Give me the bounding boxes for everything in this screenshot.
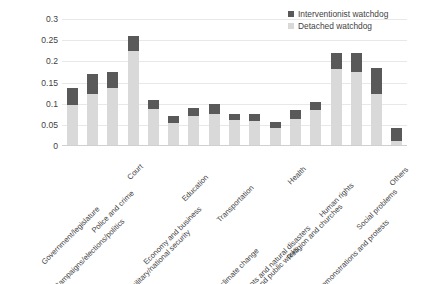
stacked-bar[interactable] xyxy=(128,36,139,146)
bar-segment-detached xyxy=(290,119,301,146)
bar-segment-interventionist xyxy=(107,72,118,88)
stacked-bar[interactable] xyxy=(270,122,281,146)
stacked-bar[interactable] xyxy=(107,72,118,146)
bar-slot xyxy=(366,19,386,146)
bar-segment-detached xyxy=(107,88,118,146)
bar-slot xyxy=(123,19,143,146)
bar-slot xyxy=(285,19,305,146)
bar-segment-detached xyxy=(87,94,98,146)
stacked-bar[interactable] xyxy=(331,53,342,146)
bar-slot xyxy=(346,19,366,146)
y-tick-label: 0.3 xyxy=(18,15,58,24)
legend-item-interventionist-watchdog: Interventionist watchdog xyxy=(288,9,388,19)
stacked-bar[interactable] xyxy=(87,74,98,146)
bar-slot xyxy=(224,19,244,146)
stacked-bar[interactable] xyxy=(168,116,179,146)
bar-slot xyxy=(103,19,123,146)
bar-segment-interventionist xyxy=(249,114,260,121)
bar-segment-detached xyxy=(270,128,281,146)
bar-segment-detached xyxy=(209,114,220,146)
x-tick-label: Court xyxy=(125,162,145,182)
bar-segment-interventionist xyxy=(351,53,362,72)
bar-slot xyxy=(387,19,407,146)
bar-segment-interventionist xyxy=(371,68,382,94)
legend-label-interventionist: Interventionist watchdog xyxy=(298,9,388,19)
bar-slot xyxy=(143,19,163,146)
bar-segment-interventionist xyxy=(331,53,342,69)
bar-slot xyxy=(82,19,102,146)
x-axis-labels: Government/legislatureCampaigns/election… xyxy=(62,147,407,277)
x-tick-label: Demonstrations and protests xyxy=(316,218,391,284)
bar-slot xyxy=(265,19,285,146)
bar-slot xyxy=(163,19,183,146)
bar-segment-detached xyxy=(67,105,78,146)
bar-segment-detached xyxy=(128,51,139,146)
bar-segment-detached xyxy=(229,120,240,146)
bar-segment-interventionist xyxy=(148,100,159,109)
bar-segment-interventionist xyxy=(209,104,220,115)
bar-segment-detached xyxy=(351,72,362,146)
y-tick-label: 0.15 xyxy=(18,78,58,87)
stacked-bar[interactable] xyxy=(290,110,301,146)
bar-slot xyxy=(245,19,265,146)
stacked-bar[interactable] xyxy=(67,88,78,146)
x-tick-label: Education xyxy=(180,173,210,203)
bar-slot xyxy=(326,19,346,146)
stacked-bar[interactable] xyxy=(229,114,240,146)
legend-swatch-interventionist xyxy=(288,11,294,17)
stacked-bar[interactable] xyxy=(148,100,159,146)
bar-segment-detached xyxy=(168,123,179,146)
bar-slot xyxy=(204,19,224,146)
bar-slot xyxy=(306,19,326,146)
bar-segment-interventionist xyxy=(67,88,78,105)
bar-slot xyxy=(184,19,204,146)
x-tick-label: Others xyxy=(387,165,409,187)
bar-segment-detached xyxy=(249,121,260,146)
bar-segment-interventionist xyxy=(128,36,139,51)
y-tick-label: 0.05 xyxy=(18,121,58,130)
y-tick-label: 0 xyxy=(18,142,58,151)
stacked-bar[interactable] xyxy=(249,114,260,146)
y-tick-label: 0.25 xyxy=(18,36,58,45)
x-axis-line xyxy=(62,145,407,146)
bar-segment-interventionist xyxy=(310,102,321,110)
bar-segment-detached xyxy=(310,110,321,146)
x-tick-label: Transportation xyxy=(214,183,255,224)
stacked-bar[interactable] xyxy=(310,102,321,146)
x-tick-label: Health xyxy=(286,165,308,187)
stacked-bar[interactable] xyxy=(188,108,199,146)
stacked-bar[interactable] xyxy=(391,128,402,146)
x-tick-label: Economy and business xyxy=(141,205,203,267)
bar-segment-interventionist xyxy=(188,108,199,116)
bar-segment-interventionist xyxy=(168,116,179,123)
bar-segment-interventionist xyxy=(391,128,402,141)
bar-slot xyxy=(62,19,82,146)
x-tick-label: Religion and churches xyxy=(285,202,344,261)
bar-segment-detached xyxy=(331,69,342,146)
bar-segment-detached xyxy=(148,109,159,146)
y-axis-ticks: 0.30.250.20.150.10.050 xyxy=(14,19,58,146)
plot-area xyxy=(62,19,407,146)
stacked-bar-chart: Interventionist watchdog Detached watchd… xyxy=(0,0,425,284)
stacked-bar[interactable] xyxy=(371,68,382,146)
bar-segment-interventionist xyxy=(87,74,98,94)
y-tick-label: 0.2 xyxy=(18,57,58,66)
stacked-bar[interactable] xyxy=(209,104,220,146)
stacked-bar[interactable] xyxy=(351,53,362,146)
bar-segment-detached xyxy=(371,94,382,146)
bar-segment-interventionist xyxy=(290,110,301,119)
y-tick-label: 0.1 xyxy=(18,99,58,108)
bar-segment-detached xyxy=(188,116,199,146)
bar-group xyxy=(62,19,407,146)
